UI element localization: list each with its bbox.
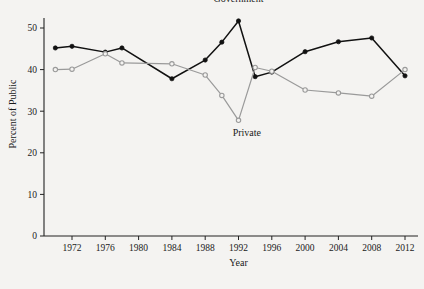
y-axis-tick-label: 50 bbox=[28, 23, 38, 33]
data-point-government bbox=[70, 44, 74, 48]
x-axis-tick-label: 2004 bbox=[329, 243, 348, 253]
data-point-private bbox=[53, 67, 57, 71]
x-axis-tick-label: 1976 bbox=[96, 243, 115, 253]
y-axis-tick-label: 10 bbox=[28, 190, 38, 200]
data-point-private bbox=[270, 69, 274, 73]
x-axis-tick-label: 1992 bbox=[229, 243, 248, 253]
y-axis-tick-label: 0 bbox=[32, 231, 37, 241]
data-point-private bbox=[170, 62, 174, 66]
y-axis-tick-label: 30 bbox=[28, 107, 38, 117]
x-axis-tick-label: 1984 bbox=[162, 243, 181, 253]
y-axis-title: Percent of Public bbox=[7, 79, 18, 148]
data-point-government bbox=[303, 50, 307, 54]
data-point-government bbox=[236, 19, 240, 23]
data-point-government bbox=[53, 46, 57, 50]
x-axis-tick-label: 2012 bbox=[396, 243, 415, 253]
data-point-private bbox=[236, 118, 240, 122]
data-point-private bbox=[253, 65, 257, 69]
data-point-private bbox=[370, 94, 374, 98]
data-point-private bbox=[70, 67, 74, 71]
data-point-government bbox=[203, 58, 207, 62]
data-point-government bbox=[220, 40, 224, 44]
series-label-private: Private bbox=[233, 127, 262, 138]
y-axis-tick-label: 40 bbox=[28, 65, 38, 75]
x-axis-tick-label: 2000 bbox=[296, 243, 315, 253]
x-axis-tick-label: 1988 bbox=[196, 243, 215, 253]
data-point-government bbox=[370, 36, 374, 40]
data-point-government bbox=[403, 74, 407, 78]
data-point-private bbox=[120, 61, 124, 65]
x-axis-tick-label: 1972 bbox=[63, 243, 82, 253]
y-axis-tick-label: 20 bbox=[28, 148, 38, 158]
data-point-private bbox=[203, 73, 207, 77]
data-point-private bbox=[303, 88, 307, 92]
data-point-private bbox=[403, 67, 407, 71]
data-point-government bbox=[253, 75, 257, 79]
data-point-private bbox=[220, 93, 224, 97]
data-point-private bbox=[103, 52, 107, 56]
x-axis-tick-label: 1996 bbox=[262, 243, 281, 253]
data-point-government bbox=[170, 77, 174, 81]
series-label-government: Government bbox=[214, 0, 264, 4]
data-point-government bbox=[336, 40, 340, 44]
x-axis-tick-label: 1980 bbox=[129, 243, 148, 253]
line-chart: 0102030405019721976198019841988199219962… bbox=[0, 0, 424, 289]
data-point-government bbox=[120, 46, 124, 50]
x-axis-title: Year bbox=[229, 257, 248, 268]
x-axis-tick-label: 2008 bbox=[362, 243, 381, 253]
data-point-private bbox=[336, 91, 340, 95]
